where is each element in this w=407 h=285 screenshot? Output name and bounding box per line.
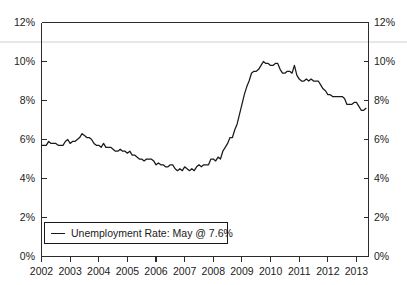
y-axis-right-tick-label: 4% — [374, 173, 407, 184]
x-axis-tick-label: 2007 — [170, 266, 200, 277]
y-axis-right-tick-label: 6% — [374, 134, 407, 145]
chart-legend[interactable]: Unemployment Rate: May @ 7.6% — [44, 222, 228, 244]
y-axis-left-tick-label: 10% — [1, 56, 35, 67]
y-axis-left-tick-label: 12% — [1, 17, 35, 28]
x-axis-tick-label: 2003 — [55, 266, 85, 277]
series-line-unemployment-rate — [42, 62, 367, 171]
y-axis-left-tick-label: 8% — [1, 95, 35, 106]
y-axis-left-tick-label: 2% — [1, 212, 35, 223]
x-axis-tick-label: 2004 — [84, 266, 114, 277]
x-axis-tick-label: 2011 — [284, 266, 314, 277]
y-axis-right-tick-label: 2% — [374, 212, 407, 223]
y-axis-right-tick-label: 12% — [374, 17, 407, 28]
legend-entry-label: Unemployment Rate: May @ 7.6% — [71, 227, 233, 239]
y-axis-left-tick-label: 4% — [1, 173, 35, 184]
x-axis-tick-label: 2002 — [27, 266, 57, 277]
y-axis-right-tick-label: 8% — [374, 95, 407, 106]
data-series-group — [42, 62, 367, 171]
x-axis-tick-label: 2012 — [313, 266, 343, 277]
y-axis-left-tick-label: 0% — [1, 251, 35, 262]
y-axis-left-tick-label: 6% — [1, 134, 35, 145]
y-axis-right-tick-label: 10% — [374, 56, 407, 67]
legend-line-swatch-icon — [51, 233, 65, 234]
chart-container: 12%10%8%6%4%2%0% 12%10%8%6%4%2%0% 200220… — [0, 0, 407, 285]
x-axis-tick-label: 2009 — [227, 266, 257, 277]
x-axis-tick-label: 2008 — [198, 266, 228, 277]
x-axis-tick-label: 2010 — [256, 266, 286, 277]
x-axis-tick-label: 2013 — [341, 266, 371, 277]
y-axis-right-tick-label: 0% — [374, 251, 407, 262]
x-axis-tick-label: 2006 — [141, 266, 171, 277]
x-axis-tick-label: 2005 — [112, 266, 142, 277]
